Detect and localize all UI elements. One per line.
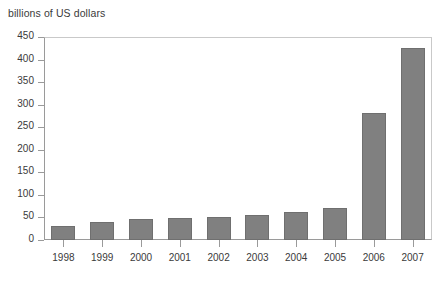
x-axis-tick-mark: [374, 240, 375, 247]
x-axis-tick-mark: [63, 240, 64, 247]
x-axis-tick-label: 2001: [160, 252, 200, 263]
x-axis-tick-label: 2000: [121, 252, 161, 263]
y-axis-tick-mark: [38, 105, 44, 106]
y-axis-tick-label: 200: [17, 143, 34, 154]
y-axis-tick-label: 450: [17, 30, 34, 41]
y-axis-tick-mark: [38, 195, 44, 196]
x-axis-tick-label: 2003: [237, 252, 277, 263]
bar: [168, 218, 192, 240]
bar: [90, 222, 114, 240]
x-axis-tick-label: 1999: [82, 252, 122, 263]
y-axis-tick-label: 350: [17, 75, 34, 86]
y-axis-tick-mark: [38, 217, 44, 218]
bar: [245, 215, 269, 240]
y-axis-tick-label: 50: [23, 210, 34, 221]
y-axis-tick-mark: [38, 60, 44, 61]
y-axis-tick-mark: [38, 37, 44, 38]
bar-chart: billions of US dollars 05010015020025030…: [0, 0, 447, 285]
bar: [51, 226, 75, 240]
y-axis-tick-mark: [38, 172, 44, 173]
x-axis-tick-mark: [296, 240, 297, 247]
x-axis-tick-label: 2007: [393, 252, 433, 263]
y-axis-tick-mark: [38, 240, 44, 241]
x-axis-tick-mark: [413, 240, 414, 247]
x-axis-tick-label: 2004: [276, 252, 316, 263]
y-axis-tick-label: 250: [17, 120, 34, 131]
bar: [207, 217, 231, 240]
bar: [323, 208, 347, 240]
bar: [129, 219, 153, 240]
y-axis-tick-mark: [38, 127, 44, 128]
x-axis-tick-mark: [257, 240, 258, 247]
y-axis-tick-label: 300: [17, 98, 34, 109]
x-axis-tick-mark: [141, 240, 142, 247]
y-axis-tick-label: 400: [17, 53, 34, 64]
x-axis-tick-label: 2002: [199, 252, 239, 263]
x-axis-tick-mark: [102, 240, 103, 247]
y-axis-title: billions of US dollars: [8, 7, 105, 19]
x-axis-tick-mark: [180, 240, 181, 247]
x-axis-tick-mark: [219, 240, 220, 247]
y-axis-tick-label: 0: [28, 233, 34, 244]
bar: [284, 212, 308, 240]
y-axis-tick-mark: [38, 150, 44, 151]
x-axis-tick-label: 2005: [315, 252, 355, 263]
x-axis-tick-label: 1998: [43, 252, 83, 263]
y-axis-tick-mark: [38, 82, 44, 83]
y-axis-tick-label: 150: [17, 165, 34, 176]
x-axis-tick-label: 2006: [354, 252, 394, 263]
x-axis-tick-mark: [335, 240, 336, 247]
bar: [362, 113, 386, 240]
bar: [401, 48, 425, 240]
y-axis-tick-label: 100: [17, 188, 34, 199]
